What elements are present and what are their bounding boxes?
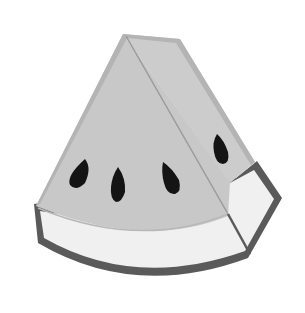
watermelon-slice-illustration [0, 0, 305, 313]
